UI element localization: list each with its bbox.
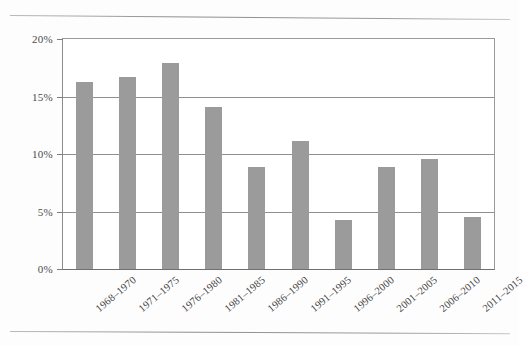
bar xyxy=(162,63,179,269)
x-axis-label: 1971–1975 xyxy=(136,274,181,314)
bar xyxy=(464,217,481,269)
bar xyxy=(292,141,309,269)
x-axis-label: 1991–1995 xyxy=(309,274,354,314)
x-axis-label: 1986–1990 xyxy=(265,274,310,314)
y-axis-label: 15% xyxy=(32,91,53,103)
x-axis-label: 1976–1980 xyxy=(179,274,224,314)
x-axis-label: 2011–2015 xyxy=(481,274,525,314)
x-axis-label: 2006–2010 xyxy=(438,274,483,314)
x-axis-label: 1981–1985 xyxy=(222,274,267,314)
bar xyxy=(119,77,136,269)
plot-area: 0%5%10%15%20% xyxy=(62,38,495,270)
x-axis-label: 1996–2000 xyxy=(352,274,397,314)
x-axis-label: 2001–2005 xyxy=(395,274,440,314)
bars-group xyxy=(63,39,494,269)
y-axis-label: 20% xyxy=(32,33,53,45)
bar xyxy=(76,82,93,269)
x-axis-label: 1968–1970 xyxy=(93,274,138,314)
bar xyxy=(335,220,352,269)
y-tick-mark xyxy=(57,269,63,270)
bar xyxy=(248,167,265,269)
bar xyxy=(205,107,222,269)
y-axis-label: 10% xyxy=(32,148,53,160)
y-axis-label: 0% xyxy=(38,263,53,275)
bar xyxy=(421,159,438,269)
y-axis-label: 5% xyxy=(38,206,53,218)
bar xyxy=(378,167,395,269)
